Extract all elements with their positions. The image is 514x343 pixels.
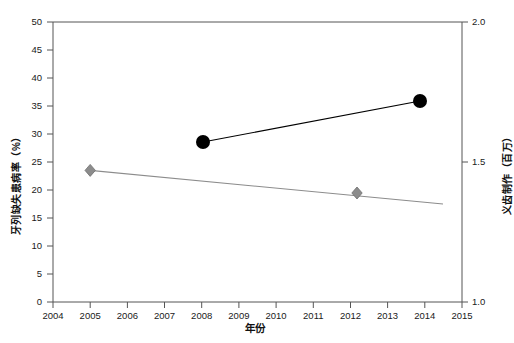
data-point-black-2014 bbox=[413, 94, 427, 108]
right-axis-tick-1-5: 1.5 bbox=[472, 156, 485, 167]
series-gray-line bbox=[90, 170, 443, 204]
data-point-black-2008 bbox=[196, 135, 210, 149]
left-axis-tick-45: 45 bbox=[16, 44, 42, 55]
data-point-gray-2012 bbox=[352, 187, 362, 199]
left-axis-tick-40: 40 bbox=[16, 72, 42, 83]
left-axis-title: 牙列缺失患病率（%） bbox=[8, 131, 23, 235]
right-axis-tick-1-0: 1.0 bbox=[472, 296, 485, 307]
bottom-axis-ticks bbox=[53, 302, 462, 308]
data-point-gray-2005 bbox=[85, 164, 95, 176]
left-axis-tick-10: 10 bbox=[16, 240, 42, 251]
series-black-line bbox=[203, 101, 420, 142]
left-axis-tick-50: 50 bbox=[16, 16, 42, 27]
right-axis-title: 义齿制作（百万） bbox=[499, 131, 514, 215]
x-axis-title: 年份 bbox=[0, 320, 510, 335]
right-axis-tick-2-0: 2.0 bbox=[472, 16, 485, 27]
right-axis-ticks bbox=[462, 22, 468, 302]
left-axis-tick-0: 0 bbox=[16, 296, 42, 307]
left-axis-tick-35: 35 bbox=[16, 100, 42, 111]
left-axis-tick-5: 5 bbox=[16, 268, 42, 279]
left-axis-ticks bbox=[47, 22, 53, 302]
